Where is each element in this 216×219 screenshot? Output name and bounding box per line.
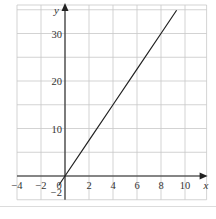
y-axis-arrow-icon [62, 3, 69, 11]
x-tick-label: 2 [86, 180, 91, 191]
x-tick-label: −4 [11, 180, 23, 191]
y-tick-label: 20 [52, 76, 63, 87]
divider [0, 206, 216, 207]
grid [17, 5, 207, 200]
y-tick-label: 10 [52, 124, 63, 135]
x-tick-label: −2 [35, 180, 46, 191]
axes [17, 3, 208, 200]
x-axis-label: x [203, 179, 209, 191]
data-line [59, 10, 177, 185]
y-axis-label: y [53, 4, 59, 16]
x-tick-label: 8 [158, 180, 163, 191]
y-tick-label: −2 [51, 187, 62, 198]
line-chart: −4−20246810−2102030xy [0, 0, 216, 219]
x-tick-label: 4 [110, 180, 116, 191]
data-series [59, 10, 177, 185]
x-tick-label: 6 [134, 180, 139, 191]
y-tick-label: 30 [52, 29, 63, 40]
x-tick-label: 10 [180, 180, 191, 191]
